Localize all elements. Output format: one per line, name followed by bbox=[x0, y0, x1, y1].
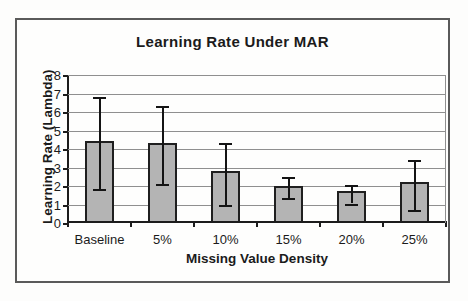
y-axis-tick-label: 3 bbox=[33, 162, 61, 176]
error-bar-cap-bottom bbox=[345, 204, 358, 206]
x-axis-tick-label: 20% bbox=[320, 233, 383, 247]
chart-title: Learning Rate Under MAR bbox=[17, 33, 448, 50]
gridline-y-5 bbox=[68, 131, 446, 132]
y-axis-tick-label: 7 bbox=[33, 88, 61, 102]
gridline-y-8 bbox=[68, 75, 446, 76]
chart-figure: Learning Rate Under MAR Learning Rate (L… bbox=[15, 18, 450, 283]
y-axis-tick-label: 2 bbox=[33, 180, 61, 194]
x-tick-mark bbox=[130, 223, 132, 227]
y-tick-mark bbox=[63, 75, 68, 77]
gridline-y-6 bbox=[68, 112, 446, 113]
error-bar-cap-top bbox=[156, 106, 169, 108]
y-tick-mark bbox=[63, 186, 68, 188]
error-bar-cap-top bbox=[219, 143, 232, 145]
y-axis-tick-label: 5 bbox=[33, 125, 61, 139]
error-bar-cap-bottom bbox=[93, 189, 106, 191]
x-axis-tick-label: 25% bbox=[383, 233, 446, 247]
plot-area bbox=[68, 75, 446, 223]
error-bar-cap-top bbox=[345, 185, 358, 187]
error-bar-cap-top bbox=[408, 160, 421, 162]
error-bar-cap-bottom bbox=[219, 205, 232, 207]
x-tick-mark bbox=[445, 223, 447, 227]
x-tick-mark bbox=[256, 223, 258, 227]
x-axis-title: Missing Value Density bbox=[68, 251, 446, 266]
y-axis-tick-label: 8 bbox=[33, 69, 61, 83]
y-tick-mark bbox=[63, 94, 68, 96]
gridline-y-2 bbox=[68, 186, 446, 187]
x-axis-tick-label: 10% bbox=[194, 233, 257, 247]
gridline-y-3 bbox=[68, 168, 446, 169]
x-axis-tick-label: 15% bbox=[257, 233, 320, 247]
error-bar-cap-top bbox=[282, 177, 295, 179]
error-bar-cap-bottom bbox=[156, 184, 169, 186]
gridline-y-4 bbox=[68, 149, 446, 150]
y-axis-tick-label: 6 bbox=[33, 106, 61, 120]
y-axis-tick-label: 1 bbox=[33, 199, 61, 213]
y-tick-mark bbox=[63, 205, 68, 207]
error-bar-line bbox=[162, 106, 164, 184]
error-bar-line bbox=[288, 177, 290, 198]
y-tick-mark bbox=[63, 168, 68, 170]
y-tick-mark bbox=[63, 112, 68, 114]
error-bar-line bbox=[414, 160, 416, 210]
x-tick-mark bbox=[382, 223, 384, 227]
error-bar-line bbox=[351, 185, 353, 203]
x-axis-tick-label: Baseline bbox=[68, 233, 131, 247]
gridline-y-1 bbox=[68, 205, 446, 206]
x-tick-mark bbox=[319, 223, 321, 227]
x-axis-tick-label: 5% bbox=[131, 233, 194, 247]
error-bar-line bbox=[99, 97, 101, 189]
gridline-y-7 bbox=[68, 94, 446, 95]
y-tick-mark bbox=[63, 131, 68, 133]
error-bar-cap-bottom bbox=[408, 210, 421, 212]
error-bar-line bbox=[225, 143, 227, 205]
x-tick-mark bbox=[67, 223, 69, 227]
y-tick-mark bbox=[63, 149, 68, 151]
x-tick-mark bbox=[193, 223, 195, 227]
error-bar-cap-bottom bbox=[282, 198, 295, 200]
y-axis-tick-label: 4 bbox=[33, 143, 61, 157]
error-bar-cap-top bbox=[93, 97, 106, 99]
y-axis-tick-label: 0 bbox=[33, 217, 61, 231]
